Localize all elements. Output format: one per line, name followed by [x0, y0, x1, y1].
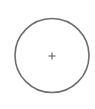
center-plus-icon	[49, 53, 56, 60]
diagram-canvas	[0, 0, 95, 109]
